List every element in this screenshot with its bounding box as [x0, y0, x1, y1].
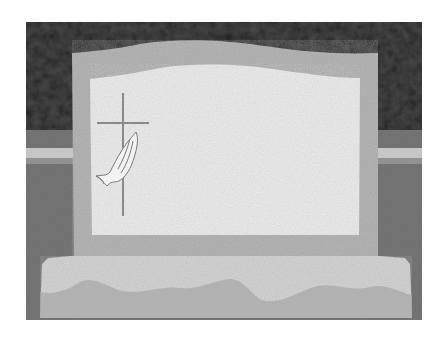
headstone-photo	[26, 22, 422, 320]
